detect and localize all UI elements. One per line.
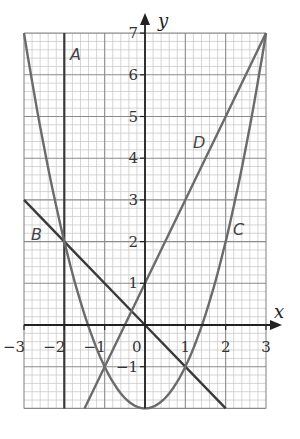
curve-label-C: C	[233, 220, 245, 239]
x-tick-label: 3	[261, 338, 271, 356]
y-tick-label: 5	[128, 108, 138, 126]
y-tick-label: −1	[116, 358, 138, 376]
y-tick-label: 3	[128, 191, 138, 209]
x-tick-label: −1	[84, 338, 106, 356]
y-tick-label: 1	[128, 274, 138, 292]
curve-label-A: A	[69, 45, 81, 64]
x-tick-label: −2	[43, 338, 65, 356]
curve-label-D: D	[193, 133, 205, 152]
y-tick-label: 2	[128, 233, 138, 251]
y-tick-label: 7	[128, 24, 138, 42]
graph-plot: −3−2−10123−11234567 x y A B C D	[0, 0, 300, 439]
x-tick-label: 2	[221, 338, 231, 356]
y-axis-label: y	[157, 10, 169, 31]
x-tick-label: −3	[3, 338, 25, 356]
curve-label-B: B	[31, 225, 42, 244]
y-tick-label: 6	[128, 66, 138, 84]
y-tick-label: 4	[128, 149, 138, 167]
x-axis-label: x	[274, 301, 284, 322]
x-tick-label: 0	[132, 338, 142, 356]
curve-B	[24, 200, 226, 409]
x-tick-label: 1	[181, 338, 191, 356]
